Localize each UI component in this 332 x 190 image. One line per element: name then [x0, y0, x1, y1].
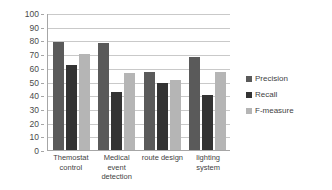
- legend-swatch-icon: [246, 92, 252, 98]
- y-tick-label: 60: [30, 64, 39, 73]
- x-tick-label: lighting system: [185, 153, 231, 182]
- legend-item-precision: Precision: [246, 74, 294, 83]
- bar-precision: [98, 43, 109, 150]
- y-tick-mark: [41, 137, 44, 138]
- y-tick-label: 30: [30, 105, 39, 114]
- y-tick-label: 0: [34, 147, 39, 156]
- y-tick-mark: [41, 55, 44, 56]
- legend-swatch-icon: [246, 76, 252, 82]
- bar-group: [140, 14, 185, 150]
- bar-recall: [157, 83, 168, 150]
- y-tick-label: 20: [30, 119, 39, 128]
- bar-precision: [53, 42, 64, 150]
- bar-group: [94, 14, 139, 150]
- bar-fmeasure: [79, 54, 90, 150]
- bar-groups: [49, 14, 230, 150]
- bar-fmeasure: [215, 72, 226, 150]
- y-tick-mark: [41, 41, 44, 42]
- bar-recall: [202, 95, 213, 150]
- legend-item-recall: Recall: [246, 90, 294, 99]
- y-tick-mark: [41, 110, 44, 111]
- y-tick-mark: [41, 69, 44, 70]
- bar-recall: [111, 92, 122, 150]
- legend-swatch-icon: [246, 108, 252, 114]
- y-tick-mark: [41, 124, 44, 125]
- y-tick-label: 50: [30, 78, 39, 87]
- y-tick-label: 10: [30, 133, 39, 142]
- y-tick-mark: [41, 151, 44, 152]
- legend-label: Recall: [255, 90, 277, 99]
- x-tick-label: Themostat control: [48, 153, 94, 182]
- y-tick-label: 100: [25, 10, 39, 19]
- legend-label: Precision: [255, 74, 288, 83]
- y-tick-label: 80: [30, 37, 39, 46]
- plot-area: [47, 14, 230, 151]
- bar-group: [49, 14, 94, 150]
- y-tick-mark: [41, 83, 44, 84]
- y-tick-label: 70: [30, 51, 39, 60]
- y-tick-mark: [41, 14, 44, 15]
- bar-precision: [144, 72, 155, 150]
- x-axis-labels: Themostat control Medical event detectio…: [48, 153, 231, 182]
- y-tick-label: 90: [30, 23, 39, 32]
- x-tick-label: route design: [140, 153, 186, 182]
- x-tick-label: Medical event detection: [94, 153, 140, 182]
- legend-label: F-measure: [255, 106, 294, 115]
- chart-legend: Precision Recall F-measure: [246, 74, 294, 115]
- bar-precision: [189, 57, 200, 150]
- bar-chart: 100 90 80 70 60 50 40 30 20 10 0: [0, 0, 332, 190]
- y-tick-mark: [41, 28, 44, 29]
- bar-group: [185, 14, 230, 150]
- legend-item-fmeasure: F-measure: [246, 106, 294, 115]
- bar-fmeasure: [124, 73, 135, 150]
- y-axis: 100 90 80 70 60 50 40 30 20 10 0: [0, 0, 44, 165]
- bar-fmeasure: [170, 80, 181, 150]
- y-tick-mark: [41, 96, 44, 97]
- y-tick-label: 40: [30, 92, 39, 101]
- bar-recall: [66, 65, 77, 150]
